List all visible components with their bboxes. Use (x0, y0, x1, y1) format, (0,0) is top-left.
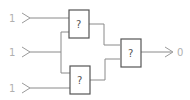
gate-1: ? (69, 10, 89, 38)
gate-2: ? (70, 66, 90, 94)
gate-2-label: ? (77, 75, 82, 86)
input-3-arrow-icon (22, 83, 30, 93)
input-1-arrow-icon (22, 13, 30, 23)
wire-gate2-gate3 (90, 59, 120, 80)
wire-gate1-gate3 (89, 24, 120, 45)
logic-circuit-diagram: 1 1 1 ? ? ? (0, 0, 190, 100)
gate-1-label: ? (76, 19, 81, 30)
input-1-value: 1 (9, 13, 15, 24)
circuit-svg: 1 1 1 ? ? ? (0, 0, 190, 100)
gate-3: ? (121, 39, 141, 67)
gate-3-label: ? (128, 48, 133, 59)
input-2-value: 1 (9, 47, 15, 58)
input-3-value: 1 (9, 83, 15, 94)
input-2-arrow-icon (22, 47, 30, 57)
output-value: 0 (177, 47, 183, 58)
